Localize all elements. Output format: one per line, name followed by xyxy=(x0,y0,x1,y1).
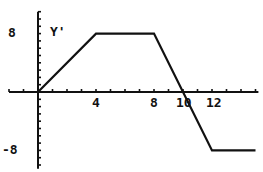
graph-plot xyxy=(0,0,263,172)
x-tick-label-10: 10 xyxy=(176,96,192,109)
function-label: Y' xyxy=(50,25,66,38)
y-tick-label-neg8: -8 xyxy=(2,143,18,156)
y-tick-label-8: 8 xyxy=(8,26,16,39)
x-tick-label-8: 8 xyxy=(150,96,158,109)
x-tick-label-4: 4 xyxy=(92,96,100,109)
axes xyxy=(9,12,258,169)
x-tick-label-12: 12 xyxy=(206,96,222,109)
